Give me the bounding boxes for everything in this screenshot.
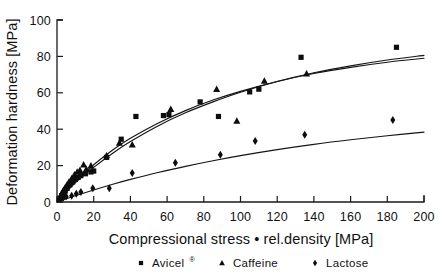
marker-square (161, 113, 166, 118)
deformation-hardness-scatter-chart: 020406080100 020406080100120140160180200… (0, 0, 444, 280)
y-axis-tick-labels: 020406080100 (30, 14, 51, 210)
x-tick-label: 80 (197, 210, 211, 224)
marker-square (133, 114, 138, 119)
x-tick-label: 40 (123, 210, 137, 224)
legend-item-label: Lactose (326, 257, 368, 269)
chart-figure: 020406080100 020406080100120140160180200… (0, 0, 444, 280)
marker-square (166, 112, 171, 117)
marker-diamond (69, 192, 74, 200)
y-axis-title: Deformation hardness [MPa] (4, 18, 20, 205)
legend-item-caffeine[interactable]: Caffeine (219, 257, 278, 269)
y-axis-ticks (57, 20, 63, 202)
x-tick-label: 160 (340, 210, 361, 224)
marker-diamond (218, 151, 223, 159)
marker-square (247, 89, 252, 94)
data-points-group (56, 45, 399, 204)
series-points-caffeine (56, 70, 310, 200)
marker-diamond (313, 260, 317, 267)
marker-diamond (302, 131, 307, 139)
x-axis-tick-labels: 020406080100120140160180200 (53, 210, 434, 224)
marker-triangle (213, 85, 220, 91)
chart-legend: Avicel®CaffeineLactose (139, 256, 369, 269)
legend-item-avicel[interactable]: Avicel® (139, 256, 196, 269)
marker-square (139, 261, 143, 265)
fit-curve-avicel (57, 55, 424, 202)
legend-item-lactose[interactable]: Lactose (313, 257, 368, 269)
marker-triangle (219, 260, 225, 265)
marker-square (256, 87, 261, 92)
y-tick-label: 20 (37, 159, 51, 173)
y-tick-label: 0 (44, 196, 51, 210)
x-tick-label: 200 (413, 210, 434, 224)
fit-curve-path (57, 132, 424, 202)
marker-square (198, 99, 203, 104)
x-tick-label: 60 (160, 210, 174, 224)
fit-curve-caffeine (57, 58, 424, 202)
axes-group: 020406080100 020406080100120140160180200 (30, 14, 435, 225)
y-tick-label: 60 (37, 86, 51, 100)
y-axis-line (57, 20, 63, 202)
marker-triangle (303, 70, 310, 76)
y-tick-label: 80 (37, 50, 51, 64)
fit-curves-group (57, 55, 424, 202)
x-tick-label: 140 (303, 210, 324, 224)
legend-item-superscript: ® (190, 256, 196, 263)
x-tick-label: 100 (230, 210, 251, 224)
x-tick-label: 0 (53, 210, 60, 224)
marker-square (91, 168, 96, 173)
fit-curve-lactose (57, 132, 424, 202)
marker-diamond (130, 169, 135, 177)
fit-curve-path (57, 55, 424, 202)
marker-diamond (390, 116, 395, 124)
fit-curve-path (57, 58, 424, 202)
marker-diamond (253, 137, 258, 145)
marker-square (298, 55, 303, 60)
marker-triangle (261, 77, 268, 83)
y-tick-label: 100 (30, 14, 51, 28)
marker-triangle (167, 105, 174, 111)
marker-triangle (233, 117, 240, 123)
marker-square (394, 45, 399, 50)
x-tick-label: 120 (266, 210, 287, 224)
marker-diamond (173, 159, 178, 167)
y-tick-label: 40 (37, 123, 51, 137)
x-axis-title: Compressional stress • rel.density [MPa] (109, 231, 374, 247)
x-tick-label: 20 (87, 210, 101, 224)
marker-square (216, 114, 221, 119)
legend-item-label: Caffeine (233, 257, 278, 269)
x-axis-ticks (57, 196, 424, 202)
x-tick-label: 180 (377, 210, 398, 224)
legend-item-label: Avicel (152, 257, 184, 269)
